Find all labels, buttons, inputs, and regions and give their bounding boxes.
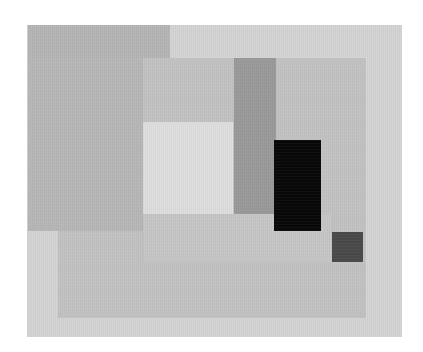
light-square — [143, 122, 233, 214]
left-dark-continuation — [28, 58, 143, 231]
gray-vertical-bar — [234, 58, 276, 214]
artwork-canvas — [0, 0, 423, 352]
black-rectangle — [274, 140, 321, 231]
dark-gray-square — [332, 232, 363, 262]
